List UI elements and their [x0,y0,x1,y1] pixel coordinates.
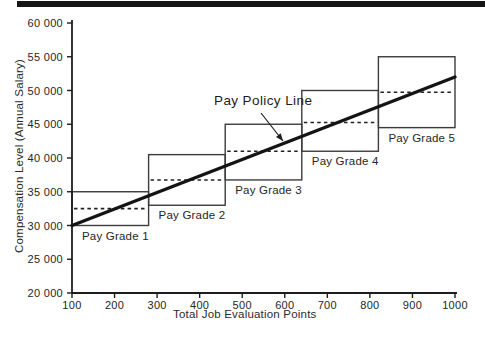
y-tick-label: 45 000 [28,118,63,130]
x-tick-label: 800 [360,299,379,311]
pay-grade-2-label: Pay Grade 2 [159,209,226,221]
y-tick-label: 50 000 [28,85,63,97]
pay-structure-figure: 20 00025 00030 00035 00040 00045 00050 0… [0,0,485,345]
pay-grade-4-label: Pay Grade 4 [312,155,379,167]
y-tick-label: 55 000 [28,51,63,63]
x-tick-label: 900 [403,299,422,311]
y-tick-label: 20 000 [28,287,63,299]
x-tick-label: 100 [62,299,81,311]
y-tick-label: 35 000 [28,186,63,198]
y-tick-label: 25 000 [28,253,63,265]
pay-structure-chart: 20 00025 00030 00035 00040 00045 00050 0… [0,0,485,345]
x-tick-label: 1000 [442,299,468,311]
annotation-arrowhead-icon [276,133,283,141]
pay-grade-5-label: Pay Grade 5 [388,132,455,144]
y-tick-label: 60 000 [28,17,63,29]
pay-grade-3-label: Pay Grade 3 [235,184,302,196]
x-tick-label: 200 [105,299,124,311]
y-axis-title: Compensation Level (Annual Salary) [13,59,25,253]
chart-canvas: 20 00025 00030 00035 00040 00045 00050 0… [0,0,485,345]
pay-grade-1-label: Pay Grade 1 [82,230,149,242]
y-tick-label: 40 000 [28,152,63,164]
y-tick-label: 30 000 [28,220,63,232]
pay-policy-line-label: Pay Policy Line [214,93,312,108]
x-axis-title: Total Job Evaluation Points [173,308,316,320]
x-tick-label: 700 [318,299,337,311]
x-tick-label: 300 [147,299,166,311]
